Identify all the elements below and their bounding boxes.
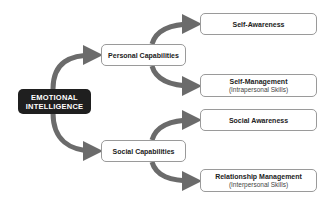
arrow-personal-to-self-awareness (152, 24, 193, 44)
arrow-social-to-social-awareness (152, 120, 193, 140)
node-title: Relationship Management (215, 172, 302, 181)
node-self-awareness: Self-Awareness (200, 13, 317, 35)
node-subtitle: (Interpersonal Skills) (229, 181, 288, 189)
node-social-capabilities: Social Capabilities (101, 140, 186, 162)
node-title: Social Awareness (229, 116, 288, 125)
node-social-awareness: Social Awareness (200, 109, 317, 131)
arrow-social-to-relationship-management (152, 162, 193, 181)
root-line-1: EMOTIONAL (31, 93, 78, 102)
arrow-root-to-personal (53, 55, 94, 89)
node-subtitle: (Intrapersonal Skills) (229, 86, 288, 94)
node-title: Self-Management (230, 77, 288, 86)
arrow-root-to-social (53, 113, 94, 151)
root-line-2: INTELLIGENCE (26, 102, 83, 111)
node-self-management: Self-Management (Intrapersonal Skills) (200, 74, 317, 97)
node-personal-capabilities: Personal Capabilities (101, 44, 186, 66)
node-title: Self-Awareness (232, 20, 284, 29)
root-node-emotional-intelligence: EMOTIONAL INTELLIGENCE (18, 89, 91, 114)
node-label: Personal Capabilities (108, 51, 179, 60)
node-label: Social Capabilities (113, 147, 175, 156)
node-relationship-management: Relationship Management (Interpersonal S… (200, 169, 317, 192)
arrow-personal-to-self-management (152, 66, 193, 86)
